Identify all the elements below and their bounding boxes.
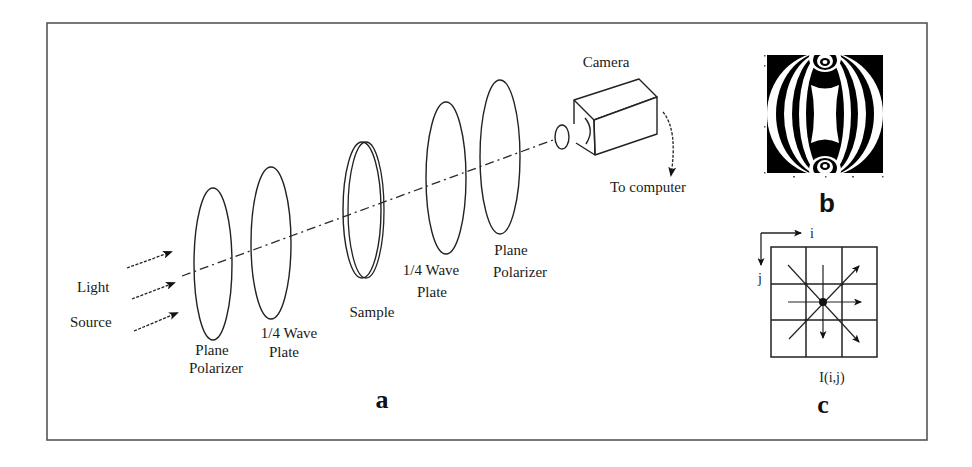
panel-a-letter: a xyxy=(376,385,389,414)
camera-icon xyxy=(574,79,657,155)
quarter-wave-plate-2-element xyxy=(426,102,466,254)
light-source-arrows xyxy=(127,252,177,331)
panel-c-letter: c xyxy=(817,390,829,419)
plane-polarizer-2-label-line1: Plane xyxy=(494,242,528,258)
fringe-image xyxy=(767,44,883,184)
quarter-wave-plate-2-label-line1: 1/4 Wave xyxy=(403,262,460,278)
photoelasticity-setup-figure: Light Source Plane Polarizer 1/4 Wave Pl… xyxy=(0,0,972,467)
light-ray-arrow-3 xyxy=(134,313,177,331)
sample-label: Sample xyxy=(350,304,395,320)
to-computer-label: To computer xyxy=(610,179,686,195)
panel-a-optical-setup: Light Source Plane Polarizer 1/4 Wave Pl… xyxy=(70,54,686,414)
quarter-wave-plate-1-label-line1: 1/4 Wave xyxy=(261,325,318,341)
ij-axes xyxy=(761,233,801,265)
axis-j-label: j xyxy=(757,271,762,286)
quarter-wave-plate-2-label-line2: Plate xyxy=(417,284,447,300)
light-ray-arrow-1 xyxy=(127,252,171,268)
camera-label: Camera xyxy=(583,54,630,70)
panel-c-pixel-grid: i j I(i,j) c xyxy=(757,226,877,419)
pixel-intensity-label: I(i,j) xyxy=(819,370,845,386)
plane-polarizer-2-element xyxy=(480,80,520,234)
panel-b-fringe-pattern: b xyxy=(764,44,884,218)
light-ray-arrow-2 xyxy=(132,283,174,299)
to-computer-arrow-icon xyxy=(663,112,673,175)
center-pixel-dot xyxy=(819,298,827,306)
plane-polarizer-1-label-line2: Polarizer xyxy=(189,360,243,376)
axis-i-label: i xyxy=(810,226,814,241)
camera-lens-element xyxy=(555,125,569,149)
light-source-label-line1: Light xyxy=(77,279,110,295)
light-source-label-line2: Source xyxy=(70,314,112,330)
panel-b-letter: b xyxy=(819,188,835,218)
quarter-wave-plate-1-element xyxy=(251,167,291,319)
plane-polarizer-1-label-line1: Plane xyxy=(195,342,229,358)
quarter-wave-plate-1-label-line2: Plate xyxy=(269,344,299,360)
plane-polarizer-2-label-line2: Polarizer xyxy=(493,264,547,280)
